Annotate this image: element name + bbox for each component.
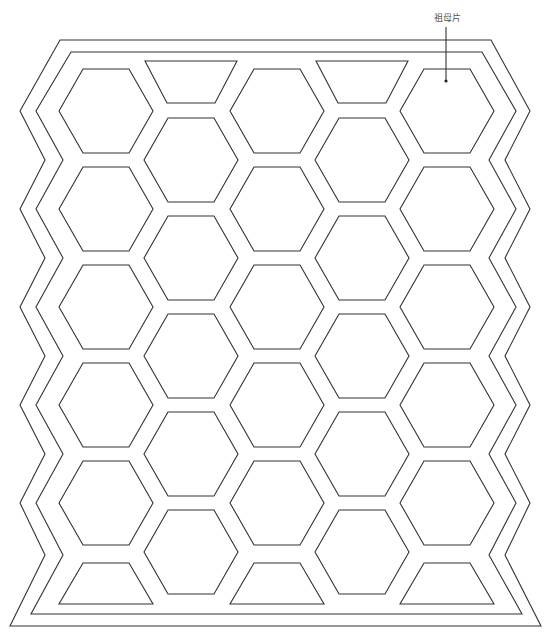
hexagon-piece: [315, 216, 409, 300]
hexagon-piece: [400, 363, 494, 447]
quilt-border: [10, 40, 541, 626]
label-leader-line: [444, 27, 447, 83]
hexagon-piece: [400, 167, 494, 251]
bottom-trapezoid-piece: [400, 563, 494, 604]
hexagon-piece: [59, 167, 153, 251]
outer-border: [10, 40, 541, 626]
hexagon-piece: [230, 265, 324, 349]
top-trapezoid-piece: [316, 61, 408, 103]
hexagon-piece: [230, 167, 324, 251]
top-trapezoid-piece: [145, 61, 237, 103]
hexagon-grid: [59, 69, 494, 594]
bottom-trapezoid-piece: [230, 563, 324, 604]
hexagon-piece: [230, 363, 324, 447]
hexagon-piece: [230, 69, 324, 153]
hexagon-piece: [144, 412, 238, 496]
hexagon-piece: [144, 510, 238, 594]
hexagon-piece: [59, 461, 153, 545]
hexagon-piece: [315, 118, 409, 202]
hexagon-piece: [59, 69, 153, 153]
hexagon-piece: [144, 216, 238, 300]
inner-border: [31, 52, 522, 614]
grandmother-piece-label: 祖母片: [434, 11, 461, 24]
hexagon-piece: [59, 363, 153, 447]
hexagon-piece: [315, 412, 409, 496]
hexagon-piece: [400, 265, 494, 349]
hexagon-piece: [230, 461, 324, 545]
hexagon-piece: [59, 265, 153, 349]
hexagon-piece: [315, 314, 409, 398]
trapezoid-pieces: [59, 61, 494, 604]
quilt-diagram: [0, 0, 552, 638]
hexagon-piece: [144, 118, 238, 202]
hexagon-piece: [315, 510, 409, 594]
hexagon-piece: [400, 461, 494, 545]
bottom-trapezoid-piece: [59, 563, 153, 604]
hexagon-piece: [144, 314, 238, 398]
leader-dot-icon: [444, 79, 447, 82]
